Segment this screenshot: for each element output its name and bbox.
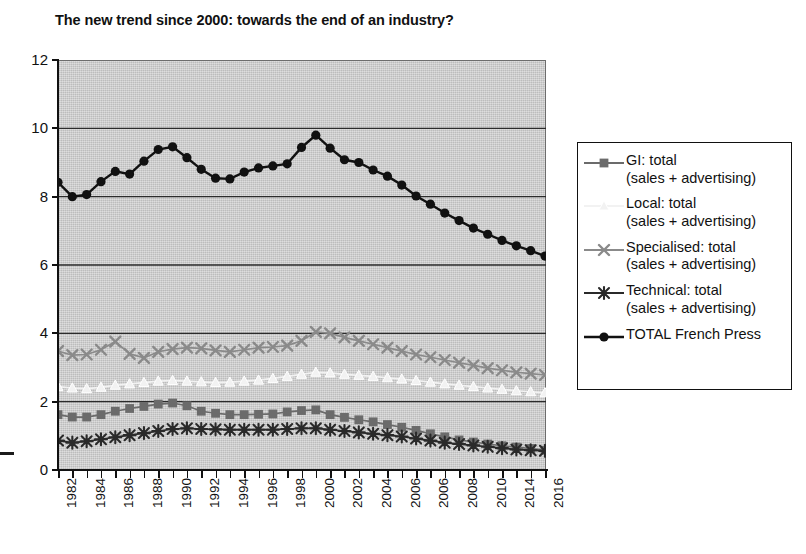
legend-label-line2: (sales + advertising): [626, 256, 756, 274]
square-marker-icon: [225, 410, 234, 419]
x-tick-label: 2002: [350, 478, 365, 508]
x-tick-label: 2000: [322, 478, 337, 508]
x-tick-label: 2006: [436, 478, 451, 508]
circle-marker-icon: [297, 143, 306, 152]
circle-marker-icon: [397, 180, 406, 189]
x-tick-label: 2008: [465, 478, 480, 508]
circle-marker-icon: [512, 241, 521, 250]
asterisk-marker-icon: [224, 424, 236, 436]
asterisk-marker-icon: [281, 423, 293, 435]
x-tick-mark: [287, 471, 289, 478]
circle-marker-icon: [340, 155, 349, 164]
circle-marker-icon: [240, 167, 249, 176]
x-tick-label: 2014: [522, 478, 537, 508]
x-tick-mark: [187, 471, 189, 478]
y-tick-label: 12: [14, 52, 48, 67]
circle-marker-icon: [268, 161, 277, 170]
square-marker-icon: [111, 407, 120, 416]
y-tick-mark: [52, 264, 58, 266]
circle-marker-icon: [283, 159, 292, 168]
asterisk-marker-icon: [66, 437, 78, 449]
x-tick-mark: [516, 471, 518, 478]
asterisk-marker-icon: [496, 442, 508, 454]
y-tick-mark: [52, 196, 58, 198]
x-tick-mark: [115, 471, 117, 478]
asterisk-marker-icon: [410, 433, 422, 445]
asterisk-marker-icon: [367, 428, 379, 440]
legend-item[interactable]: Specialised: total(sales + advertising): [578, 239, 791, 274]
x-tick-label: 1986: [121, 478, 136, 508]
x-tick-mark: [230, 471, 232, 478]
asterisk-marker-icon: [109, 431, 121, 443]
asterisk-marker-icon: [338, 425, 350, 437]
circle-marker-icon: [225, 174, 234, 183]
series-line: [58, 422, 546, 457]
x-tick-mark: [173, 471, 175, 478]
asterisk-marker-icon: [598, 287, 610, 299]
legend-label-line1: TOTAL French Press: [626, 326, 761, 342]
asterisk-marker-icon: [195, 423, 207, 435]
asterisk-marker-icon: [181, 422, 193, 434]
x-tick-mark: [72, 471, 74, 478]
legend-label-line1: Local: total: [626, 195, 696, 211]
x-tick-mark: [445, 471, 447, 478]
square-marker-icon: [297, 406, 306, 415]
x-tick-mark: [273, 471, 275, 478]
y-tick-label: 2: [14, 394, 48, 409]
legend-label-line1: Specialised: total: [626, 239, 736, 255]
x-tick-label: 1988: [150, 478, 165, 508]
square-marker-icon: [97, 410, 106, 419]
asterisk-marker-icon: [238, 424, 250, 436]
cross-marker-icon: [125, 349, 135, 359]
legend-label-line2: (sales + advertising): [626, 300, 756, 318]
square-marker-icon: [240, 410, 249, 419]
asterisk-marker-icon: [152, 425, 164, 437]
asterisk-marker-icon: [296, 422, 308, 434]
circle-marker-icon: [599, 332, 608, 341]
circle-marker-icon: [154, 145, 163, 154]
circle-marker-icon: [440, 208, 449, 217]
x-tick-mark: [244, 471, 246, 478]
x-tick-label: 1982: [64, 478, 79, 508]
circle-marker-icon: [526, 246, 535, 255]
legend-item[interactable]: Technical: total(sales + advertising): [578, 282, 791, 317]
circle-marker-icon: [96, 177, 105, 186]
series-line: [58, 367, 546, 397]
legend-item[interactable]: GI: total(sales + advertising): [578, 152, 791, 187]
asterisk-marker-icon: [253, 424, 265, 436]
asterisk-marker-icon: [81, 435, 93, 447]
legend-item[interactable]: TOTAL French Press: [578, 326, 791, 347]
legend-item[interactable]: Local: total(sales + advertising): [578, 195, 791, 230]
x-tick-mark: [144, 471, 146, 478]
x-tick-mark: [216, 471, 218, 478]
x-tick-mark: [473, 471, 475, 478]
legend-marker: [582, 327, 626, 347]
asterisk-marker-icon: [310, 422, 322, 434]
y-tick-label: 0: [14, 462, 48, 477]
circle-marker-icon: [125, 170, 134, 179]
x-tick-label: 1990: [179, 478, 194, 508]
legend-label: Specialised: total(sales + advertising): [626, 239, 756, 274]
y-tick-mark: [52, 332, 58, 334]
x-tick-mark: [359, 471, 361, 478]
legend-marker: [582, 196, 626, 216]
x-tick-mark: [416, 471, 418, 478]
square-marker-icon: [600, 159, 609, 168]
x-tick-label: 2006: [408, 478, 423, 508]
circle-marker-icon: [182, 153, 191, 162]
asterisk-marker-icon: [467, 439, 479, 451]
square-marker-icon: [283, 408, 292, 417]
square-marker-icon: [82, 413, 91, 422]
x-tick-mark: [302, 471, 304, 478]
circle-marker-icon: [68, 192, 77, 201]
scan-artifact: [0, 452, 14, 455]
square-marker-icon: [383, 420, 392, 429]
legend-label: Local: total(sales + advertising): [626, 195, 756, 230]
circle-marker-icon: [111, 167, 120, 176]
square-marker-icon: [68, 413, 77, 422]
x-tick-mark: [158, 471, 160, 478]
asterisk-marker-icon: [167, 423, 179, 435]
legend-label-line2: (sales + advertising): [626, 213, 756, 231]
circle-marker-icon: [254, 163, 263, 172]
x-tick-mark: [488, 471, 490, 478]
